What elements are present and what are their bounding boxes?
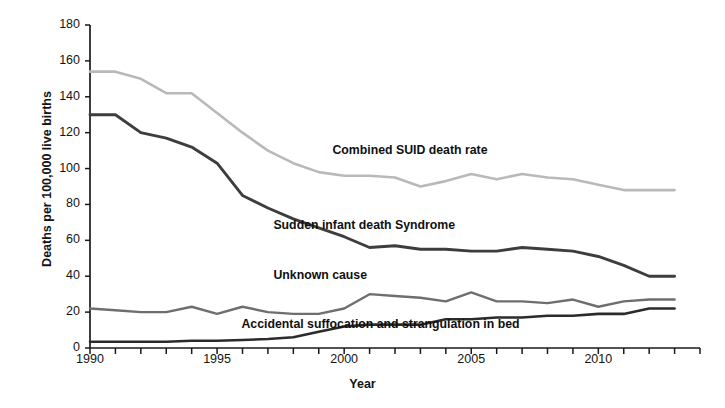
x-tick-label: 1990 xyxy=(60,352,120,366)
x-axis-title: Year xyxy=(0,377,725,391)
y-tick-label: 140 xyxy=(34,89,80,103)
series-label-0: Combined SUID death rate xyxy=(332,143,487,157)
chart-container: Deaths per 100,000 live births Year 0204… xyxy=(0,0,725,408)
y-tick-label: 100 xyxy=(34,161,80,175)
x-tick-label: 2010 xyxy=(568,352,628,366)
y-tick-label: 180 xyxy=(34,17,80,31)
x-tick-label: 2005 xyxy=(441,352,501,366)
y-tick-label: 60 xyxy=(34,232,80,246)
series-label-1: Sudden infant death Syndrome xyxy=(273,218,455,232)
y-tick-label: 80 xyxy=(34,196,80,210)
y-tick-label: 160 xyxy=(34,53,80,67)
series-label-2: Unknown cause xyxy=(273,268,367,282)
x-tick-label: 1995 xyxy=(187,352,247,366)
y-axis-title: Deaths per 100,000 live births xyxy=(40,29,54,329)
series-label-3: Accidental suffocation and strangulation… xyxy=(241,317,519,331)
chart-series-layer xyxy=(90,72,675,342)
y-tick-label: 120 xyxy=(34,125,80,139)
y-tick-label: 20 xyxy=(34,304,80,318)
x-tick-label: 2000 xyxy=(314,352,374,366)
y-tick-label: 40 xyxy=(34,268,80,282)
line-chart-plot xyxy=(0,0,725,408)
